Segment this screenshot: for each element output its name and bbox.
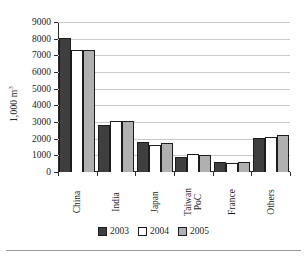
bar-group xyxy=(97,22,136,172)
bar xyxy=(265,137,277,172)
bar xyxy=(214,162,226,172)
x-axis-label-others: Others xyxy=(251,178,290,226)
legend-label: 2004 xyxy=(150,226,169,236)
x-axis-label-text: Others xyxy=(266,189,276,214)
bar-group xyxy=(174,22,213,172)
bar xyxy=(83,50,95,172)
y-tick-label: 5000 xyxy=(32,84,51,94)
x-axis-label-japan: Japan xyxy=(135,178,174,226)
x-tick-mark xyxy=(58,172,59,176)
bar xyxy=(149,145,161,172)
x-axis-label-line: France xyxy=(227,189,237,215)
bar-group xyxy=(135,22,174,172)
bar xyxy=(98,125,110,172)
x-axis-label-text: France xyxy=(227,189,237,215)
y-tick-label: 1000 xyxy=(32,150,51,160)
bottom-rule xyxy=(6,250,301,251)
bar xyxy=(253,138,265,172)
x-axis-label-text: China xyxy=(72,191,82,214)
legend-swatch-icon xyxy=(138,227,147,236)
bar xyxy=(110,121,122,172)
x-axis-label-china: China xyxy=(58,178,97,226)
x-tick-mark xyxy=(135,172,136,176)
chart-figure: 1,000 m3 0100020003000400050006000700080… xyxy=(0,0,307,258)
bar xyxy=(59,38,71,172)
y-tick-label: 9000 xyxy=(32,17,51,27)
bar xyxy=(187,154,199,172)
x-axis-label-line: India xyxy=(111,192,121,212)
y-axis-title-superscript: 3 xyxy=(7,86,14,89)
x-axis-label-text: TaiwanPoC xyxy=(183,188,203,216)
y-tick-label: 0 xyxy=(46,167,51,177)
x-axis-label-text: Japan xyxy=(150,191,160,213)
x-tick-mark xyxy=(251,172,252,176)
x-axis-label-france: France xyxy=(213,178,252,226)
bar xyxy=(226,163,238,172)
bar-group xyxy=(58,22,97,172)
bar-groups xyxy=(58,22,290,172)
x-axis-label-line: Japan xyxy=(150,191,160,213)
bar xyxy=(277,135,289,172)
legend-item-2003[interactable]: 2003 xyxy=(98,226,129,236)
x-axis-label-line: Taiwan xyxy=(183,188,193,216)
y-tick-label: 7000 xyxy=(32,50,51,60)
legend-swatch-icon xyxy=(178,227,187,236)
bar xyxy=(175,157,187,173)
x-axis-label-india: India xyxy=(97,178,136,226)
x-tick-mark xyxy=(97,172,98,176)
x-axis-labels: ChinaIndiaJapanTaiwanPoCFranceOthers xyxy=(58,178,290,226)
bar xyxy=(199,155,211,173)
y-tick-label: 6000 xyxy=(32,67,51,77)
x-axis-label-line: PoC xyxy=(193,188,203,216)
x-tick-mark xyxy=(290,172,291,176)
y-tick-label: 3000 xyxy=(32,117,51,127)
y-axis-title-text: 1,000 m xyxy=(9,89,19,122)
y-tick-label: 4000 xyxy=(32,100,51,110)
legend-label: 2003 xyxy=(110,226,129,236)
plot-area: 0100020003000400050006000700080009000 xyxy=(58,22,290,172)
bar xyxy=(238,162,250,172)
x-tick-mark xyxy=(174,172,175,176)
legend-swatch-icon xyxy=(98,227,107,236)
x-axis-label-taiwan-poc: TaiwanPoC xyxy=(174,178,213,226)
bar-group xyxy=(213,22,252,172)
x-tick-mark xyxy=(213,172,214,176)
bar-group xyxy=(251,22,290,172)
x-axis-label-text: India xyxy=(111,192,121,212)
bar xyxy=(137,142,149,172)
bar xyxy=(71,50,83,172)
x-axis-label-line: China xyxy=(72,191,82,214)
chart-legend: 200320042005 xyxy=(0,226,307,236)
legend-item-2005[interactable]: 2005 xyxy=(178,226,209,236)
y-tick-label: 8000 xyxy=(32,34,51,44)
bar xyxy=(161,143,173,172)
y-axis-title: 1,000 m3 xyxy=(4,58,22,150)
legend-label: 2005 xyxy=(190,226,209,236)
legend-item-2004[interactable]: 2004 xyxy=(138,226,169,236)
y-tick-label: 2000 xyxy=(32,134,51,144)
bar xyxy=(122,121,134,172)
x-axis-label-line: Others xyxy=(266,189,276,214)
